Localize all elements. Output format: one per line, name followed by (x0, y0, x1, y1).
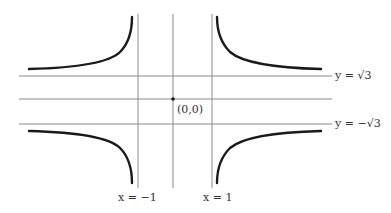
curve-upper-left (29, 17, 132, 69)
curve-upper-right (217, 17, 321, 69)
origin-point (171, 97, 175, 101)
label-y-sqrt3: y = √3 (335, 70, 371, 81)
label-x-one: x = 1 (203, 192, 232, 203)
curve-lower-right (217, 131, 321, 183)
origin-label: (0,0) (177, 104, 203, 115)
label-x-neg-one: x = −1 (118, 192, 157, 203)
label-y-neg-sqrt3: y = −√3 (335, 118, 381, 129)
curve-lower-left (29, 131, 132, 183)
